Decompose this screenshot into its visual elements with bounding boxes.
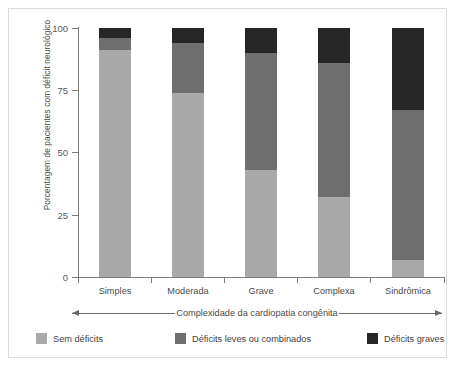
legend-label-deficits-graves: Déficits graves — [384, 334, 444, 344]
x-tick-2 — [224, 277, 225, 283]
bar-moderada — [172, 28, 204, 277]
bar-sindromica — [392, 28, 424, 277]
legend-item-sem-deficits: Sem déficits — [36, 333, 103, 344]
segment-deficits-graves — [245, 28, 277, 53]
x-label-complexa: Complexa — [294, 286, 374, 296]
y-tick-label-100: 100 — [38, 24, 68, 34]
segment-sem-deficits — [318, 197, 350, 277]
segment-deficits-leves — [318, 63, 350, 197]
segment-deficits-leves — [245, 53, 277, 170]
segment-sem-deficits — [99, 50, 131, 277]
legend-item-deficits-leves: Déficits leves ou combinados — [175, 333, 311, 344]
bar-complexa — [318, 28, 350, 277]
legend-item-deficits-graves: Déficits graves — [367, 333, 444, 344]
x-label-simples: Simples — [75, 286, 155, 296]
arrow-left-icon — [72, 313, 175, 314]
y-tick-label-75: 75 — [38, 86, 68, 96]
legend-label-sem-deficits: Sem déficits — [53, 334, 103, 344]
segment-deficits-leves — [99, 38, 131, 50]
legend-label-deficits-leves: Déficits leves ou combinados — [192, 334, 311, 344]
segment-deficits-graves — [392, 28, 424, 110]
y-tick-label-50: 50 — [38, 148, 68, 158]
x-axis-line — [78, 277, 445, 278]
arrow-right-icon — [339, 313, 442, 314]
y-tick-label-0: 0 — [38, 273, 68, 283]
x-tick-1 — [151, 277, 152, 283]
segment-deficits-graves — [99, 28, 131, 38]
segment-deficits-leves — [172, 43, 204, 93]
plot-area — [78, 28, 448, 277]
x-label-sindromica: Sindrômica — [368, 286, 448, 296]
x-tick-3 — [297, 277, 298, 283]
x-axis-caption: Complexidade da cardiopatia congênita — [72, 305, 442, 321]
x-label-grave: Grave — [221, 286, 301, 296]
bar-simples — [99, 28, 131, 277]
segment-deficits-leves — [392, 110, 424, 259]
segment-deficits-graves — [172, 28, 204, 43]
bar-grave — [245, 28, 277, 277]
legend-swatch-icon-deficits-leves — [175, 333, 186, 344]
segment-sem-deficits — [172, 93, 204, 277]
legend-swatch-icon-deficits-graves — [367, 333, 378, 344]
x-axis-caption-text: Complexidade da cardiopatia congênita — [175, 308, 338, 318]
segment-sem-deficits — [245, 170, 277, 277]
chart-figure: Porcentagem de pacientes com déficit neu… — [0, 0, 455, 366]
x-tick-0 — [78, 277, 79, 283]
legend-swatch-icon-sem-deficits — [36, 333, 47, 344]
segment-deficits-graves — [318, 28, 350, 63]
y-axis-title: Porcentagem de pacientes com déficit neu… — [42, 0, 52, 240]
segment-sem-deficits — [392, 260, 424, 277]
x-label-moderada: Moderada — [148, 286, 228, 296]
x-tick-4 — [370, 277, 371, 283]
chart-legend: Sem déficits Déficits leves ou combinado… — [36, 333, 426, 344]
y-tick-label-25: 25 — [38, 211, 68, 221]
x-tick-5 — [444, 277, 445, 283]
